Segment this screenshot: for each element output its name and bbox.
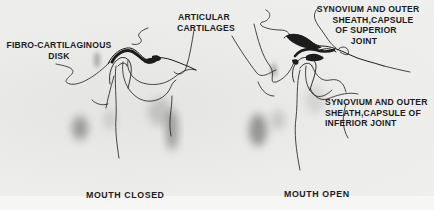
label-line: SHEATH,CAPSULE OF	[325, 108, 428, 119]
label-line: ARTICULAR	[177, 12, 235, 23]
tmj-anatomy-figure: FIBRO-CARTILAGINOUS DISK ARTICULAR CARTI…	[0, 0, 434, 210]
label-line: INFERIOR JOINT	[325, 118, 428, 129]
label-line: OF SUPERIOR	[310, 25, 426, 36]
label-line: DISK	[3, 51, 115, 62]
label-line: JOINT	[310, 36, 426, 47]
label-line: SHEATH,CAPSULE	[310, 15, 426, 26]
label-line: CARTILAGES	[177, 23, 235, 34]
label-articular-cartilages: ARTICULAR CARTILAGES	[177, 12, 235, 33]
caption-mouth-open: MOUTH OPEN	[284, 189, 350, 199]
radiograph-shading-closed	[72, 52, 178, 150]
caption-mouth-closed: MOUTH CLOSED	[86, 190, 165, 200]
label-synovium-superior-joint: SYNOVIUM AND OUTER SHEATH,CAPSULE OF SUP…	[310, 4, 426, 46]
label-fibro-cartilaginous-disk: FIBRO-CARTILAGINOUS DISK	[3, 40, 115, 61]
label-line: SYNOVIUM AND OUTER	[325, 97, 428, 108]
label-line: SYNOVIUM AND OUTER	[310, 4, 426, 15]
label-line: FIBRO-CARTILAGINOUS	[3, 40, 115, 51]
label-synovium-inferior-joint: SYNOVIUM AND OUTER SHEATH,CAPSULE OF INF…	[325, 97, 428, 129]
